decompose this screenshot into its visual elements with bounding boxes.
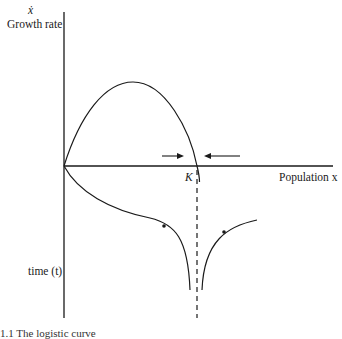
- time-axis-label: time (t): [28, 266, 62, 278]
- y-axis-label: Growth rate: [7, 19, 62, 31]
- trajectory-marker-right: [222, 230, 226, 234]
- growth-rate-curve: [64, 82, 200, 182]
- k-label: K: [185, 172, 193, 184]
- x-axis-label: Population x: [279, 172, 337, 184]
- figure-caption: 1.1 The logistic curve: [0, 327, 96, 339]
- y-axis-symbol: ẋ: [28, 5, 33, 17]
- trajectory-marker-left: [162, 224, 166, 228]
- arrow-left-icon: [204, 153, 240, 159]
- trajectory-below-k: [64, 166, 190, 290]
- trajectory-above-k: [202, 220, 257, 290]
- arrow-right-icon: [162, 153, 184, 159]
